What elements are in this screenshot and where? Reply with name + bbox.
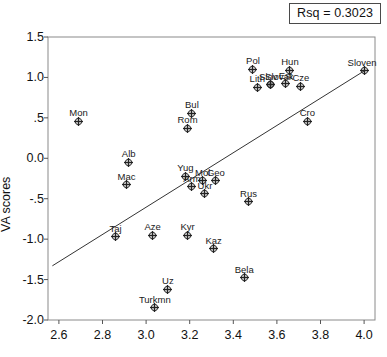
scatter-plot-figure: Rsq = 0.3023 VA scores 1.51.0.50.0-.5-1.…: [0, 0, 387, 357]
data-point-label: Kyr: [180, 222, 194, 232]
data-point-label: Yug: [177, 163, 193, 173]
data-point-label: Aze: [144, 222, 160, 232]
data-point-label: Cze: [292, 73, 309, 83]
data-point-label: Kaz: [205, 236, 221, 246]
data-point-label: Rus: [240, 189, 257, 199]
data-point-label: Mon: [69, 108, 87, 118]
data-point-label: Sloven: [348, 58, 377, 68]
data-point-label: Pol: [246, 56, 260, 66]
data-point-label: Bela: [235, 265, 254, 275]
data-point-label: Cro: [300, 108, 315, 118]
data-point-label: Taj: [110, 224, 122, 234]
data-point-label: Geo: [207, 168, 225, 178]
data-point-label: Mac: [117, 172, 135, 182]
data-point-label: Hun: [281, 57, 298, 67]
data-point-label: Bul: [185, 100, 199, 110]
data-point-label: Ukr: [198, 181, 213, 191]
data-point-label: Turkmn: [139, 295, 171, 305]
data-point-label: Rom: [177, 115, 197, 125]
data-point-label: Alb: [122, 149, 136, 159]
data-point-label: Uz: [162, 276, 174, 286]
